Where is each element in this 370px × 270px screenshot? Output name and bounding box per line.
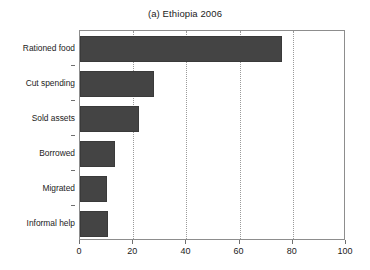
bar-migrated [80,176,107,202]
y-axis-label: Borrowed [1,148,75,158]
bars-layer [80,31,344,239]
bar-cut-spending [80,71,154,97]
x-axis-label: 0 [76,246,81,256]
x-axis: 020406080100 [79,240,345,270]
x-axis-tick [79,240,80,244]
x-axis-label: 20 [127,246,137,256]
y-axis-tick [71,205,75,206]
x-axis-label: 80 [287,246,297,256]
y-axis-tick [71,135,75,136]
bar-slot [80,136,344,171]
bar-slot [80,66,344,101]
x-axis-tick [239,240,240,244]
bar-sold-assets [80,106,139,132]
bar-rationed-food [80,36,282,62]
y-axis-tick [71,170,75,171]
bar-slot [80,206,344,241]
y-axis-label: Migrated [1,183,75,193]
x-axis-tick [132,240,133,244]
y-axis-tick [71,65,75,66]
chart-title: (a) Ethiopia 2006 [0,8,370,19]
x-axis-label: 40 [180,246,190,256]
bar-slot [80,171,344,206]
y-axis-tick [71,100,75,101]
bar-borrowed [80,141,115,167]
x-axis-tick [292,240,293,244]
y-axis-label: Sold assets [1,113,75,123]
chart-figure: (a) Ethiopia 2006 Rationed foodCut spend… [0,0,370,270]
x-axis-tick [345,240,346,244]
bar-informal-help [80,211,108,237]
x-axis-tick [185,240,186,244]
x-axis-label: 100 [337,246,352,256]
bar-slot [80,31,344,66]
y-axis-label: Cut spending [1,78,75,88]
y-axis-label: Rationed food [1,43,75,53]
bar-slot [80,101,344,136]
y-axis-labels: Rationed foodCut spendingSold assetsBorr… [0,30,75,240]
plot-area [79,30,345,240]
y-axis-label: Informal help [1,218,75,228]
x-axis-label: 60 [234,246,244,256]
